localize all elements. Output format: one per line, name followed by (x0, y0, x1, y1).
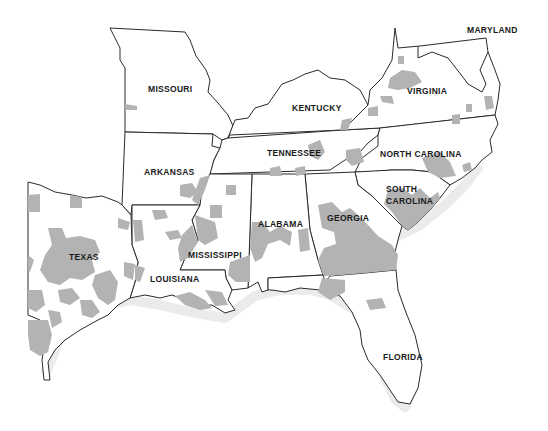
shade-alabama (298, 228, 310, 252)
label-florida: FLORIDA (383, 352, 423, 362)
label-georgia: GEORGIA (327, 213, 369, 223)
shade-virginia (466, 104, 472, 112)
shade-texas (70, 195, 82, 208)
label-kentucky: KENTUCKY (292, 103, 342, 113)
label-virginia: VIRGINIA (407, 86, 447, 96)
southern-states-map: MISSOURI KENTUCKY VIRGINIA MARYLAND ARKA… (0, 0, 548, 431)
state-virginia (343, 28, 500, 130)
label-arkansas: ARKANSAS (144, 167, 195, 177)
label-texas: TEXAS (69, 252, 99, 262)
shade-mississippi (210, 205, 222, 218)
label-south-carolina-line2: CAROLINA (386, 196, 433, 206)
label-north-carolina: NORTH CAROLINA (380, 149, 462, 159)
label-louisiana: LOUISIANA (150, 274, 199, 284)
label-missouri: MISSOURI (148, 84, 192, 94)
shade-virginia (452, 114, 460, 124)
label-tennessee: TENNESSEE (267, 148, 321, 158)
shade-mississippi (226, 185, 236, 195)
shade-texas (28, 194, 40, 212)
label-maryland: MARYLAND (467, 25, 518, 35)
label-alabama: ALABAMA (258, 219, 303, 229)
shade-virginia (398, 56, 404, 64)
label-south-carolina-line1: SOUTH (386, 184, 417, 194)
label-mississippi: MISSISSIPPI (188, 250, 242, 260)
